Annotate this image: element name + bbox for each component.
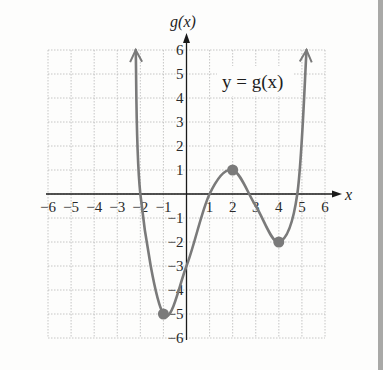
x-tick-label: 2 bbox=[229, 199, 237, 215]
x-tick-label: 4 bbox=[275, 199, 283, 215]
y-tick-label: 2 bbox=[176, 138, 184, 154]
y-tick-label: 1 bbox=[176, 162, 184, 178]
y-tick-label: 4 bbox=[176, 90, 184, 106]
x-tick-label: −6 bbox=[40, 199, 56, 215]
y-tick-label: −1 bbox=[168, 210, 184, 226]
page-edge-stripe bbox=[378, 0, 383, 370]
turning-point-marker bbox=[273, 237, 284, 248]
graph-canvas: −6−5−4−3−2−1123456654321−1−2−3−4−5−6 g(x… bbox=[0, 0, 383, 370]
turning-point-marker bbox=[227, 165, 238, 176]
turning-point-marker bbox=[158, 309, 169, 320]
y-tick-label: −3 bbox=[168, 258, 184, 274]
y-axis-title: g(x) bbox=[170, 13, 196, 31]
y-tick-label: 3 bbox=[176, 114, 184, 130]
y-tick-label: 5 bbox=[176, 66, 184, 82]
x-tick-label: 6 bbox=[321, 199, 329, 215]
x-axis-arrow-icon bbox=[332, 191, 342, 198]
y-tick-label: −6 bbox=[168, 330, 184, 346]
x-tick-label: −3 bbox=[109, 199, 125, 215]
function-label: y = g(x) bbox=[222, 71, 283, 93]
x-tick-label: −4 bbox=[86, 199, 102, 215]
y-axis-arrow-icon bbox=[183, 33, 190, 43]
x-axis-title: x bbox=[344, 186, 352, 203]
x-tick-label: −5 bbox=[63, 199, 79, 215]
y-tick-label: −2 bbox=[168, 234, 184, 250]
x-tick-label: 5 bbox=[298, 199, 306, 215]
y-tick-label: 6 bbox=[176, 42, 184, 58]
